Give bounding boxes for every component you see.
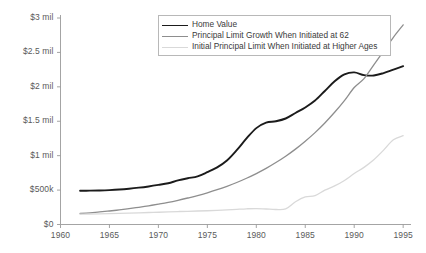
chart-legend: Home ValuePrincipal Limit Growth When In… bbox=[158, 15, 391, 56]
y-tick-label: $3 mil bbox=[0, 12, 54, 22]
chart-container: $0$500k$1 mil$1.5 mil$2 mil$2.5 mil$3 mi… bbox=[0, 0, 426, 253]
legend-item: Initial Principal Limit When Initiated a… bbox=[162, 41, 386, 52]
legend-item: Principal Limit Growth When Initiated at… bbox=[162, 30, 386, 41]
x-tick-label: 1995 bbox=[383, 230, 423, 240]
x-tick-label: 1990 bbox=[334, 230, 374, 240]
y-tick-label: $1 mil bbox=[0, 150, 54, 160]
x-tick-label: 1965 bbox=[89, 230, 129, 240]
series-line-2 bbox=[80, 136, 403, 214]
y-tick-label: $2.5 mil bbox=[0, 46, 54, 56]
legend-item-label: Home Value bbox=[192, 19, 237, 30]
y-tick-label: $0 bbox=[0, 219, 54, 229]
x-tick-label: 1960 bbox=[41, 230, 81, 240]
legend-item-label: Principal Limit Growth When Initiated at… bbox=[192, 30, 349, 41]
legend-item: Home Value bbox=[162, 19, 386, 30]
series-line-0 bbox=[80, 66, 403, 191]
x-tick-label: 1985 bbox=[285, 230, 325, 240]
x-tick-label: 1975 bbox=[187, 230, 227, 240]
x-tick-label: 1980 bbox=[236, 230, 276, 240]
y-tick-label: $500k bbox=[0, 184, 54, 194]
x-tick-label: 1970 bbox=[138, 230, 178, 240]
y-tick-label: $1.5 mil bbox=[0, 115, 54, 125]
y-tick-label: $2 mil bbox=[0, 81, 54, 91]
legend-item-label: Initial Principal Limit When Initiated a… bbox=[192, 41, 377, 52]
